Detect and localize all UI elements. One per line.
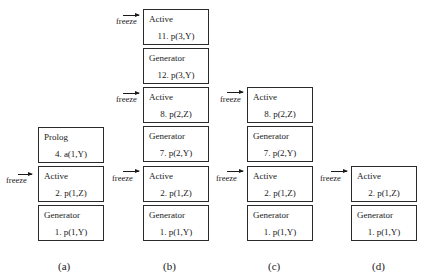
frame-label: Generator bbox=[44, 210, 80, 220]
frame-goal: 11. p(3,Y) bbox=[144, 31, 208, 41]
freeze-label: freeze bbox=[216, 174, 237, 183]
frame-label: Prolog bbox=[44, 132, 68, 142]
freeze-arrow-icon bbox=[227, 92, 243, 93]
frame-goal: 1. p(1,Y) bbox=[352, 227, 416, 237]
frame-goal: 8. p(2,Z) bbox=[144, 109, 208, 119]
frame-generator: Generator 1. p(1,Y) bbox=[351, 205, 417, 241]
frame-label: Generator bbox=[253, 131, 289, 141]
frame-generator: Generator 1. p(1,Y) bbox=[38, 205, 104, 241]
frame-label: Active bbox=[149, 92, 173, 102]
freeze-label: freeze bbox=[112, 174, 133, 183]
frame-goal: 8. p(2,Z) bbox=[248, 109, 312, 119]
freeze-arrow-icon bbox=[227, 171, 243, 172]
frame-label: Generator bbox=[357, 210, 393, 220]
frame-label: Generator bbox=[149, 131, 185, 141]
frame-active: Active 8. p(2,Z) bbox=[247, 87, 313, 123]
frame-generator: Generator 7. p(2,Y) bbox=[247, 126, 313, 162]
frame-goal: 1. p(1,Y) bbox=[248, 227, 312, 237]
frame-goal: 2. p(1,Z) bbox=[144, 188, 208, 198]
frame-label: Generator bbox=[149, 53, 185, 63]
frame-generator: Generator 1. p(1,Y) bbox=[143, 205, 209, 241]
frame-goal: 1. p(1,Y) bbox=[39, 227, 103, 237]
freeze-label: freeze bbox=[320, 174, 341, 183]
frame-active: Active 2. p(1,Z) bbox=[247, 166, 313, 202]
frame-goal: 1. p(1,Y) bbox=[144, 227, 208, 237]
frame-label: Active bbox=[44, 171, 68, 181]
frame-label: Generator bbox=[149, 210, 185, 220]
frame-active: Active 11. p(3,Y) bbox=[143, 9, 209, 45]
freeze-label: freeze bbox=[6, 176, 27, 185]
frame-label: Active bbox=[253, 171, 277, 181]
frame-generator: Generator 12. p(3,Y) bbox=[143, 48, 209, 84]
frame-generator: Generator 7. p(2,Y) bbox=[143, 126, 209, 162]
frame-label: Active bbox=[253, 92, 277, 102]
frame-label: Generator bbox=[253, 210, 289, 220]
frame-goal: 12. p(3,Y) bbox=[144, 70, 208, 80]
frame-label: Active bbox=[149, 14, 173, 24]
caption-c: (c) bbox=[268, 260, 280, 272]
caption-d: (d) bbox=[372, 260, 385, 272]
freeze-label: freeze bbox=[220, 95, 241, 104]
frame-goal: 2. p(1,Z) bbox=[352, 188, 416, 198]
frame-goal: 4. a(1,Y) bbox=[39, 149, 103, 159]
frame-goal: 7. p(2,Y) bbox=[144, 148, 208, 158]
frame-active: Active 2. p(1,Z) bbox=[38, 166, 104, 202]
frame-goal: 7. p(2,Y) bbox=[248, 148, 312, 158]
frame-label: Active bbox=[149, 171, 173, 181]
frame-active: Active 2. p(1,Z) bbox=[143, 166, 209, 202]
frame-generator: Generator 1. p(1,Y) bbox=[247, 205, 313, 241]
frame-goal: 2. p(1,Z) bbox=[248, 188, 312, 198]
frame-active: Active 2. p(1,Z) bbox=[351, 166, 417, 202]
freeze-label: freeze bbox=[116, 95, 137, 104]
caption-a: (a) bbox=[58, 260, 70, 272]
frame-active: Active 8. p(2,Z) bbox=[143, 87, 209, 123]
caption-b: (b) bbox=[163, 260, 176, 272]
freeze-arrow-icon bbox=[331, 171, 347, 172]
frame-label: Active bbox=[357, 171, 381, 181]
freeze-arrow-icon bbox=[123, 171, 139, 172]
freeze-label: freeze bbox=[116, 17, 137, 26]
frame-goal: 2. p(1,Z) bbox=[39, 188, 103, 198]
frame-prolog: Prolog 4. a(1,Y) bbox=[38, 127, 104, 163]
